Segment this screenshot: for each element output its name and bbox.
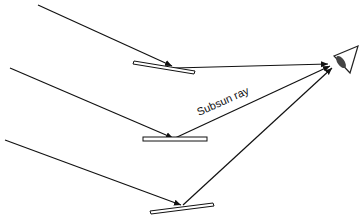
incoming-rays [5, 5, 181, 205]
incoming-ray-3 [5, 140, 181, 205]
incoming-ray-2 [10, 68, 173, 138]
subsun-diagram: Subsun ray [0, 0, 361, 219]
reflected-ray-2-subsun [175, 66, 330, 138]
reflected-rays [174, 64, 332, 205]
incoming-ray-1 [38, 5, 172, 66]
ice-crystal-3 [150, 203, 214, 214]
reflected-ray-1 [174, 64, 328, 68]
eye-icon [334, 46, 358, 73]
ice-crystal-2 [143, 137, 207, 141]
subsun-ray-label: Subsun ray [195, 84, 251, 118]
ice-crystals [133, 61, 214, 214]
